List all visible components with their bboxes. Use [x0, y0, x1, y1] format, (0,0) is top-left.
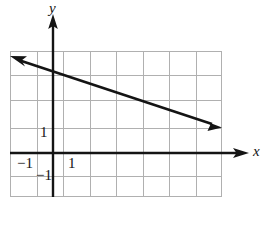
- x-axis: [10, 148, 249, 158]
- tick-label-x-positive-one: 1: [68, 156, 76, 171]
- tick-label-x-negative-one: −1: [17, 156, 33, 171]
- x-axis-label: x: [253, 144, 260, 159]
- y-axis-label: y: [49, 1, 56, 16]
- tick-label-y-negative-one: −1: [36, 168, 52, 183]
- coordinate-plane-svg: [0, 0, 265, 229]
- line-arrowhead-right-icon: [205, 121, 222, 131]
- tick-label-y-positive-one: 1: [40, 125, 48, 140]
- graph-figure: y x 1 −1 1 −1: [0, 0, 265, 229]
